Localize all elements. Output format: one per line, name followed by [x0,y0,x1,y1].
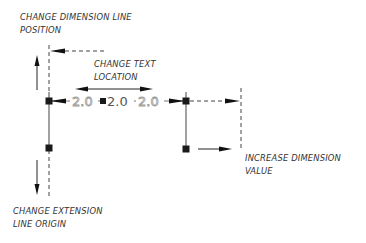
grip-extension-origin-left[interactable] [46,145,53,152]
text-move-arrowhead-right [140,87,153,92]
label-line-2: LINE ORIGIN [13,217,103,230]
label-line-2: VALUE [245,164,341,177]
label-increase-dimension-value: INCREASE DIMENSION VALUE [245,151,341,177]
dimension-ghost-arrowhead-right [225,99,240,104]
dimension-grip-diagram: 2.0 2.0 2.0 CHANGE DIMENSION LINE POSITI… [0,0,366,243]
label-line-1: CHANGE TEXT [94,57,156,70]
label-line-1: INCREASE DIMENSION [245,151,341,164]
move-down-arrowhead [35,184,40,195]
text-move-arrowhead-left [75,87,88,92]
label-line-1: CHANGE EXTENSION [13,204,103,217]
move-up-arrowhead [35,55,40,66]
increase-value-arrowhead [219,147,232,152]
grip-extension-origin-right[interactable] [183,146,190,153]
dimension-text-ghost-left: 2.0 [72,94,93,109]
grip-text[interactable] [100,98,106,104]
dimension-line-ghost-arrowhead [50,49,65,54]
dimension-text: 2.0 [107,94,128,109]
label-line-2: LOCATION [94,70,156,83]
label-line-2: POSITION [20,23,132,36]
grip-dimension-line-left[interactable] [46,98,53,105]
grip-dimension-line-right[interactable] [183,98,190,105]
dimension-text-ghost-right: 2.0 [138,94,159,109]
label-line-1: CHANGE DIMENSION LINE [20,10,132,23]
label-change-text-location: CHANGE TEXT LOCATION [94,57,156,83]
label-change-dimension-line-position: CHANGE DIMENSION LINE POSITION [20,10,132,36]
label-change-extension-line-origin: CHANGE EXTENSION LINE ORIGIN [13,204,103,230]
